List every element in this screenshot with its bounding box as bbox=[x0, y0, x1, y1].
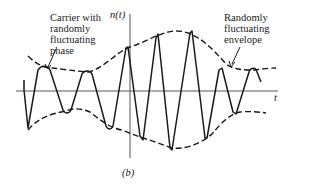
figure-caption: (b) bbox=[122, 167, 134, 178]
y-axis-label: n(t) bbox=[110, 9, 125, 20]
lower-envelope bbox=[28, 109, 266, 148]
phase-annotation-line: randomly bbox=[50, 23, 101, 34]
envelope-annotation-line: fluctuating bbox=[224, 23, 270, 34]
envelope-annotation-line: envelope bbox=[224, 34, 270, 45]
envelope-annotation-line: Randomly bbox=[224, 12, 270, 23]
phase-annotation-line: fluctuating bbox=[50, 34, 101, 45]
phase-annotation-line: Carrier with bbox=[50, 12, 101, 23]
envelope-annotation: Randomly fluctuating envelope bbox=[224, 12, 270, 45]
phase-annotation: Carrier with randomly fluctuating phase bbox=[50, 12, 101, 56]
x-axis-label: t bbox=[274, 92, 277, 103]
phase-annotation-line: phase bbox=[50, 45, 101, 56]
envelope-pointer-arrow bbox=[232, 47, 240, 64]
